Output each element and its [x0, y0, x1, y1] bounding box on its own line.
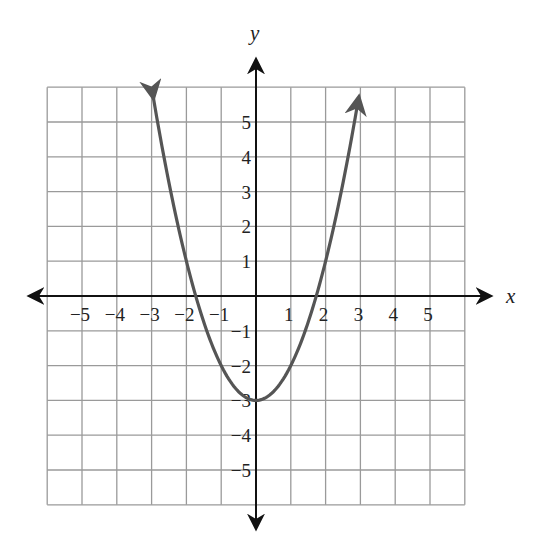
x-tick-label: 4: [388, 304, 398, 325]
x-tick-label: 5: [423, 304, 433, 325]
x-tick-label: 1: [284, 304, 294, 325]
x-axis-label: x: [505, 284, 516, 308]
x-tick-label: −2: [174, 304, 194, 325]
x-tick-label: −5: [70, 304, 90, 325]
y-tick-label: −4: [231, 425, 252, 446]
x-tick-label: −3: [139, 304, 159, 325]
x-tick-label: −1: [209, 304, 229, 325]
coordinate-plane: −5−4−3−2−112345−5−4−3−2−112345 x y: [0, 0, 545, 546]
y-tick-label: −2: [231, 356, 251, 377]
y-tick-label: 2: [242, 216, 252, 237]
x-tick-label: 2: [319, 304, 329, 325]
axes: [30, 60, 490, 528]
y-tick-label: 1: [242, 251, 252, 272]
y-tick-label: −5: [231, 460, 251, 481]
x-tick-label: 3: [354, 304, 364, 325]
y-tick-label: 5: [242, 112, 252, 133]
x-tick-label: −4: [105, 304, 126, 325]
y-axis-label: y: [248, 21, 260, 45]
y-tick-label: 3: [242, 182, 252, 203]
y-tick-label: −1: [231, 321, 251, 342]
y-tick-label: 4: [242, 147, 252, 168]
